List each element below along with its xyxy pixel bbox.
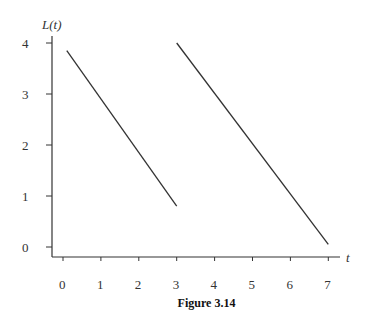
x-ticks: 01234567 [59, 257, 331, 292]
svg-text:4: 4 [211, 277, 218, 292]
svg-text:0: 0 [22, 240, 29, 255]
svg-text:1: 1 [97, 277, 104, 292]
y-ticks: 01234 [22, 36, 52, 255]
svg-text:5: 5 [249, 277, 256, 292]
data-lines [67, 43, 329, 244]
line-segment-2 [177, 43, 329, 244]
chart: 01234 01234567 L(t) t [0, 0, 373, 326]
svg-text:1: 1 [22, 189, 29, 204]
svg-text:4: 4 [22, 36, 29, 51]
svg-text:3: 3 [173, 277, 180, 292]
line-segment-1 [67, 51, 177, 207]
svg-text:6: 6 [286, 277, 293, 292]
svg-text:0: 0 [59, 277, 66, 292]
figure-caption: Figure 3.14 [0, 296, 373, 311]
svg-text:2: 2 [22, 138, 29, 153]
svg-text:7: 7 [324, 277, 331, 292]
y-axis-label: L(t) [41, 17, 62, 32]
svg-text:3: 3 [22, 87, 29, 102]
svg-text:2: 2 [135, 277, 142, 292]
x-axis-label: t [346, 250, 350, 265]
